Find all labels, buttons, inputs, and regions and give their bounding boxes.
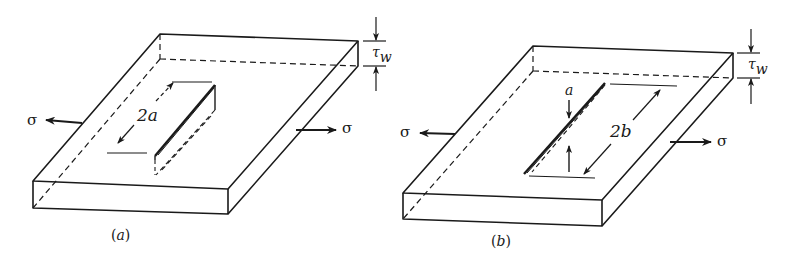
panel-a-stress-label-left: σ <box>27 113 37 128</box>
panel-a-thickness-label: τw <box>372 45 392 59</box>
panel-b-stress-label-left: σ <box>400 125 410 140</box>
panel-a-crack-length-label: 2a <box>137 107 158 124</box>
panel-b-stress-arrows <box>420 133 711 142</box>
panel-b-crack-length-label: 2b <box>610 123 632 140</box>
panel-b-crack-depth-label: a <box>565 83 573 97</box>
panel-a-crack <box>155 85 215 175</box>
thickness-subscript: w <box>756 61 768 77</box>
panel-b-dimension-2b <box>529 84 677 178</box>
panel-a-plate <box>33 34 358 214</box>
panel-a-stress-arrows <box>46 120 336 130</box>
panel-b-hidden-edges <box>403 46 733 219</box>
panel-b-stress-label-right: σ <box>717 134 727 149</box>
caption-letter: a <box>116 227 124 243</box>
panel-a-caption: (a) <box>111 228 130 242</box>
panel-b-caption: (b) <box>491 234 511 248</box>
thickness-subscript: w <box>380 49 392 65</box>
panel-a-dimension-2a <box>107 82 212 153</box>
panel-b-plate <box>403 46 733 226</box>
thickness-symbol: τ <box>372 44 380 60</box>
caption-letter: b <box>496 233 505 249</box>
thickness-symbol: τ <box>748 56 756 72</box>
panel-b-thickness-label: τw <box>748 57 768 71</box>
panel-a-stress-label-right: σ <box>342 121 352 136</box>
